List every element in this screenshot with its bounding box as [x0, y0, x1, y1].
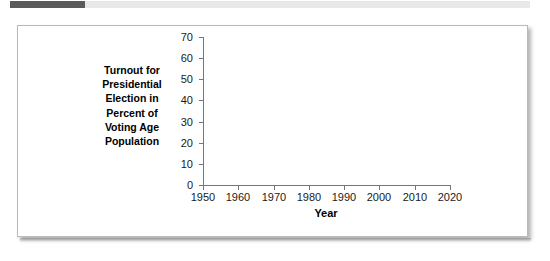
x-axis-title: Year	[286, 207, 366, 219]
x-tick-label: 2000	[359, 192, 399, 203]
y-axis-title-line: Percent of	[92, 106, 172, 120]
x-tick-label: 1990	[324, 192, 364, 203]
x-tick-mark	[450, 186, 451, 190]
y-tick-label: 10	[163, 159, 193, 170]
progress-bar-track	[10, 1, 530, 8]
y-tick-mark	[199, 122, 203, 123]
x-tick-mark	[415, 186, 416, 190]
y-axis-title-line: Election in	[92, 91, 172, 105]
x-tick-mark	[274, 186, 275, 190]
x-tick-label: 1970	[254, 192, 294, 203]
plot-area	[203, 37, 450, 185]
y-tick-mark	[199, 143, 203, 144]
y-tick-mark	[199, 164, 203, 165]
y-tick-mark	[199, 100, 203, 101]
y-axis-title-line: Turnout for	[92, 63, 172, 77]
x-axis-line	[203, 185, 451, 186]
y-tick-mark	[199, 79, 203, 80]
x-tick-label: 2020	[430, 192, 470, 203]
x-tick-label: 1950	[183, 192, 223, 203]
y-tick-mark	[199, 58, 203, 59]
x-tick-mark	[203, 186, 204, 190]
x-tick-label: 1980	[289, 192, 329, 203]
y-tick-label: 70	[163, 32, 193, 43]
y-axis-title-line: Population	[92, 134, 172, 148]
y-tick-mark	[199, 37, 203, 38]
x-tick-label: 2010	[395, 192, 435, 203]
figure-drop-shadow	[20, 238, 531, 242]
y-axis-title-line: Presidential	[92, 77, 172, 91]
y-axis-title-line: Voting Age	[92, 120, 172, 134]
x-tick-mark	[344, 186, 345, 190]
x-tick-mark	[238, 186, 239, 190]
progress-bar-fill	[10, 1, 85, 8]
y-tick-label: 0	[163, 180, 193, 191]
y-axis-title: Turnout forPresidentialElection inPercen…	[92, 63, 172, 148]
x-tick-label: 1960	[218, 192, 258, 203]
x-tick-mark	[309, 186, 310, 190]
x-tick-mark	[379, 186, 380, 190]
